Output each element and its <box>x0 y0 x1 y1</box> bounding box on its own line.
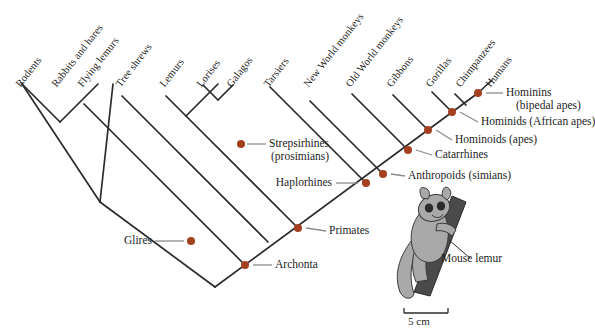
node-dot-glires <box>187 237 195 245</box>
clade-label-catarrhines: Catarrhines <box>435 148 488 161</box>
lemur-ear-left <box>420 188 429 199</box>
node-dot-primates <box>294 224 302 232</box>
clade-label-anthropoids: Anthropoids (simians) <box>408 169 511 182</box>
branch-tarsiers <box>270 87 366 183</box>
leader-hominoids <box>436 130 452 140</box>
node-dot-catarrhines <box>404 146 412 154</box>
node-dot-anthropoids <box>379 170 387 178</box>
clade-label-strepsirhines-line2: (prosimians) <box>271 150 329 163</box>
clade-label-hominoids: Hominoids (apes) <box>455 133 537 146</box>
node-dot-hominids <box>448 108 456 116</box>
branch-gorillas <box>432 92 452 112</box>
lemur-eye-right <box>437 201 445 210</box>
node-dot-strepsirhines <box>237 140 245 148</box>
clade-label-archonta: Archonta <box>275 258 318 271</box>
leader-primates <box>306 228 326 231</box>
clade-label-hominins: Hominins (bipedal apes) <box>506 86 581 112</box>
lemur-eye-left <box>425 203 433 212</box>
branch-tree-shrews <box>122 96 268 242</box>
clade-label-haplorhines: Haplorhines <box>252 176 332 189</box>
clade-label-primates: Primates <box>329 224 369 237</box>
clade-label-glires: Glires <box>96 234 152 247</box>
clade-label-strepsirhines-line1: Strepsirhines <box>269 137 329 150</box>
branch-gibbons <box>393 95 428 130</box>
leader-catarrhines <box>416 150 432 155</box>
scale-bar-label: 5 cm <box>408 315 430 327</box>
branch-strepsirhine-stem <box>186 116 298 228</box>
leader-anthropoids <box>391 174 405 176</box>
branch-lemurs <box>166 96 186 116</box>
leader-hominids <box>460 112 478 122</box>
node-dot-hominins <box>474 89 482 97</box>
branch-chimpanzees <box>455 94 466 105</box>
mouse-lemur-illustration <box>397 187 470 298</box>
clade-label-hominins-line1: Hominins <box>506 86 581 99</box>
scale-bar <box>404 308 448 313</box>
clade-label-hominids: Hominids (African apes) <box>481 115 595 128</box>
clade-label-strepsirhines: Strepsirhines (prosimians) <box>269 137 329 163</box>
clade-label-hominins-line2: (bipedal apes) <box>516 99 581 112</box>
branch-lagomorph-riser <box>100 84 113 202</box>
node-dot-archonta <box>241 261 249 269</box>
branch-rabbits-arm <box>60 84 98 122</box>
branch-rodents <box>22 84 100 202</box>
node-dot-hominoids <box>424 126 432 134</box>
mouse-lemur-caption: Mouse lemur <box>441 252 502 264</box>
branch-rodents-arm <box>22 84 60 122</box>
node-dot-haplorhines <box>362 179 370 187</box>
